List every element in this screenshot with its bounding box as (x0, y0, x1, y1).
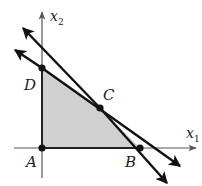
x2-axis-label-text: x (50, 8, 58, 24)
x2-axis-label: x2 (50, 9, 64, 27)
x1-axis-label-text: x (186, 125, 194, 141)
vertex-B-dot (136, 144, 143, 151)
vertex-B-label: B (125, 155, 136, 170)
x1-axis-label-subscript: 1 (194, 134, 200, 144)
vertex-C-dot (96, 104, 103, 111)
x1-axis-label: x1 (186, 126, 200, 144)
x2-axis-label-subscript: 2 (58, 17, 64, 27)
vertex-C-label: C (103, 88, 114, 103)
vertex-D-label: D (24, 78, 36, 93)
vertex-A-dot (38, 144, 45, 151)
vertex-A-label: A (26, 155, 37, 170)
vertex-D-dot (38, 64, 45, 71)
